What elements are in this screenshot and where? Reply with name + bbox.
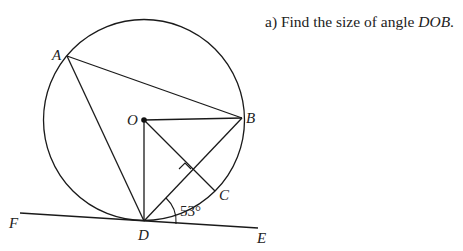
question-text: a) Find the size of angle DOB.	[265, 13, 454, 31]
question-body: Find the size of angle	[281, 13, 414, 30]
center-point-O	[141, 117, 147, 123]
tangent-line-FE	[20, 213, 258, 228]
label-B: B	[246, 110, 255, 126]
question-prefix: a)	[265, 13, 277, 30]
angle-arc-53	[166, 198, 176, 224]
question-angle-name: DOB	[418, 13, 450, 30]
angle-label-53: 53°	[180, 203, 201, 219]
circle-theorem-diagram: A B O C D E F 53°	[0, 0, 463, 251]
label-E: E	[256, 230, 266, 246]
radius-OB	[144, 118, 242, 120]
label-A: A	[51, 47, 62, 63]
label-C: C	[219, 187, 230, 203]
question-suffix: .	[450, 13, 454, 30]
label-F: F	[8, 215, 19, 231]
radius-OC	[144, 120, 215, 191]
label-O: O	[127, 112, 138, 128]
label-D: D	[137, 227, 149, 243]
chord-AB	[67, 56, 242, 118]
